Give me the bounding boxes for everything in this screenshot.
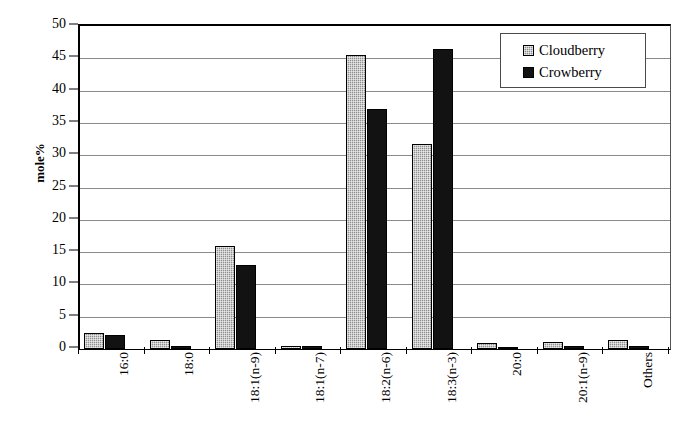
y-axis-tick-label: 15	[52, 243, 66, 257]
y-axis-tick-mark	[69, 314, 78, 315]
y-axis-tick-mark	[69, 185, 78, 186]
legend-entry-crowberry: Crowberry	[523, 61, 645, 83]
bar-cloudberry-18:2(n-6)	[346, 55, 366, 349]
x-axis-tick-labels: 16:018:018:1(n-9)18:1(n-7)18:2(n-6)18:3(…	[78, 352, 668, 428]
x-axis-tick-label: 20:0	[510, 352, 524, 376]
x-axis-tick-label: 18:0	[182, 352, 196, 376]
y-axis-tick-mark	[69, 56, 78, 57]
bar-crowberry-18:1(n-9)	[236, 265, 256, 349]
y-axis-tick-mark	[69, 24, 78, 25]
bar-crowberry-18:2(n-6)	[367, 109, 387, 349]
bar-crowberry-18:3(n-3)	[433, 49, 453, 349]
bar-group	[277, 26, 343, 349]
y-axis-tick-label: 0	[59, 340, 66, 354]
bar-cloudberry-18:1(n-9)	[215, 246, 235, 349]
y-axis-tick-label: 5	[59, 308, 66, 322]
y-axis-tick-mark	[69, 120, 78, 121]
y-axis-tick-mark	[69, 88, 78, 89]
legend: Cloudberry Crowberry	[500, 33, 646, 88]
y-axis-tick-mark	[69, 217, 78, 218]
bar-cloudberry-18:3(n-3)	[412, 144, 432, 349]
legend-swatch-icon-crowberry	[523, 67, 534, 78]
y-axis-tick-mark	[69, 347, 78, 348]
bar-group	[80, 26, 146, 349]
y-axis-tick-label: 30	[52, 146, 66, 160]
legend-entry-cloudberry: Cloudberry	[523, 39, 645, 61]
x-axis-tick-label: 18:1(n-7)	[313, 352, 327, 403]
x-axis-tick-label: 18:3(n-3)	[445, 352, 459, 403]
x-axis-tick-mark	[668, 347, 669, 354]
y-axis-tick-label: 10	[52, 275, 66, 289]
x-axis-tick-label: 18:1(n-9)	[248, 352, 262, 403]
bar-group	[211, 26, 277, 349]
y-axis-tick-mark	[69, 153, 78, 154]
legend-label-cloudberry: Cloudberry	[539, 43, 605, 58]
bar-group	[408, 26, 474, 349]
bar-group	[146, 26, 212, 349]
x-axis-tick-label: 20:1(n-9)	[576, 352, 590, 403]
legend-label-crowberry: Crowberry	[539, 65, 602, 80]
y-axis-tick-label: 45	[52, 49, 66, 63]
y-axis-tick-mark	[69, 282, 78, 283]
y-axis-tick-labels: 05101520253035404550	[0, 24, 78, 347]
y-axis-tick-label: 40	[52, 82, 66, 96]
bar-group	[342, 26, 408, 349]
y-axis-tick-label: 35	[52, 114, 66, 128]
x-axis-tick-label: 16:0	[117, 352, 131, 376]
legend-swatch-icon-cloudberry	[523, 45, 534, 56]
y-axis-tick-label: 25	[52, 179, 66, 193]
y-axis-tick-label: 20	[52, 211, 66, 225]
y-axis-tick-label: 50	[52, 17, 66, 31]
bar-chart: mole% 05101520253035404550 16:018:018:1(…	[0, 0, 686, 428]
x-axis-tick-label: Others	[641, 352, 655, 388]
x-axis-tick-label: 18:2(n-6)	[379, 352, 393, 403]
y-axis-tick-mark	[69, 250, 78, 251]
